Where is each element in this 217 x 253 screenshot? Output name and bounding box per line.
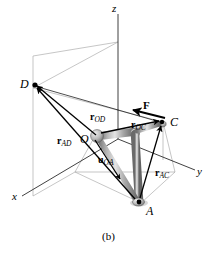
vector-arrow-F bbox=[133, 110, 165, 118]
axis-label-z: z bbox=[112, 3, 116, 14]
figure-caption: (b) bbox=[0, 230, 217, 242]
vector-arrow-r-OD bbox=[37, 86, 96, 135]
mechanics-diagram-svg bbox=[0, 0, 217, 253]
vector-label-u-OA: uOA bbox=[98, 155, 114, 165]
vector-arrow-r-AC bbox=[140, 126, 161, 198]
vector-label-r-OC: rOC bbox=[131, 120, 146, 130]
vector-symbol-u-OA: u bbox=[98, 154, 104, 165]
pipe-strut-OA bbox=[98, 137, 137, 201]
vector-subscript-r-AC: AC bbox=[159, 171, 169, 180]
ground-edge-1 bbox=[33, 172, 75, 196]
pipe-segment-vertical bbox=[135, 134, 139, 200]
point-label-A: A bbox=[146, 205, 153, 217]
figure-container: z x y O A C D rOD rOC rAD rAC uOA F (b) bbox=[0, 0, 217, 253]
force-label-F: F bbox=[143, 100, 150, 111]
axis-label-x: x bbox=[12, 191, 17, 202]
axis-label-y: y bbox=[197, 166, 202, 177]
vector-subscript-r-OD: OD bbox=[94, 115, 105, 124]
vector-label-r-AD: rAD bbox=[57, 136, 71, 146]
point-marker-D bbox=[32, 82, 37, 87]
vector-label-r-AC: rAC bbox=[155, 168, 169, 178]
vector-subscript-r-AD: AD bbox=[61, 139, 71, 148]
vector-label-r-OD: rOD bbox=[90, 112, 105, 122]
ground-edge-3 bbox=[163, 122, 175, 172]
point-marker-A bbox=[137, 200, 142, 205]
vector-subscript-r-OC: OC bbox=[135, 123, 145, 132]
point-label-D: D bbox=[20, 78, 29, 90]
point-marker-C bbox=[160, 120, 164, 124]
point-label-O: O bbox=[80, 133, 89, 145]
vector-subscript-u-OA: OA bbox=[104, 158, 114, 167]
point-label-C: C bbox=[170, 116, 178, 128]
